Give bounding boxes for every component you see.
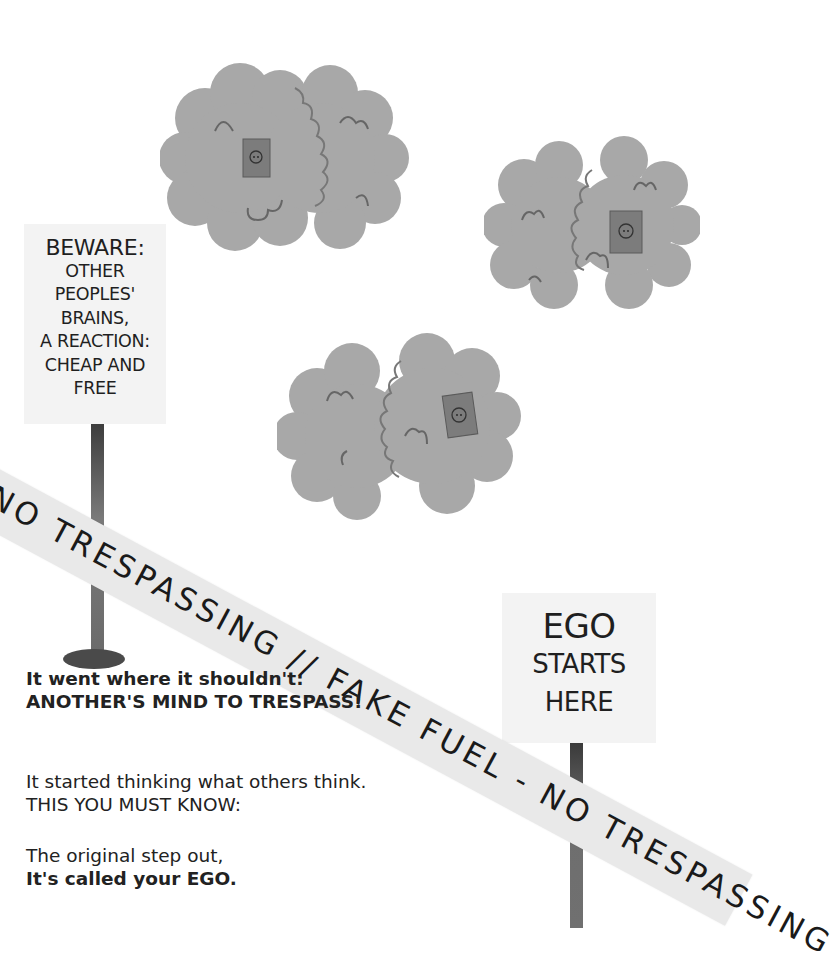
- poem-stanza-3: The original step out, It's called your …: [26, 844, 237, 890]
- sign-line: BRAINS,: [24, 307, 166, 331]
- ego-starts-here-sign: EGO STARTS HERE: [502, 593, 656, 743]
- poem-line: ANOTHER'S MIND TO TRESPASS!: [26, 690, 363, 713]
- sign-line: HERE: [502, 683, 656, 721]
- sign-line: OTHER: [24, 260, 166, 284]
- poem-line: It went where it shouldn't:: [26, 667, 363, 690]
- brain-center-illustration: [277, 326, 527, 521]
- outlet-icon: [610, 211, 642, 253]
- sign-line: STARTS: [502, 645, 656, 683]
- poem-line: It's called your EGO.: [26, 867, 237, 890]
- poem-line: The original step out,: [26, 844, 237, 867]
- sign-line: PEOPLES': [24, 283, 166, 307]
- beware-sign: BEWARE: OTHER PEOPLES' BRAINS, A REACTIO…: [24, 224, 166, 424]
- sign-line: EGO: [502, 607, 656, 645]
- brain-top-right-illustration: [484, 130, 700, 310]
- outlet-icon: [243, 139, 270, 177]
- poem-stanza-1: It went where it shouldn't: ANOTHER'S MI…: [26, 667, 363, 713]
- sign-line: CHEAP AND: [24, 354, 166, 378]
- sign-line: BEWARE:: [24, 236, 166, 260]
- poem-line: It started thinking what others think.: [26, 770, 366, 793]
- sign-line: FREE: [24, 377, 166, 401]
- poem-stanza-2: It started thinking what others think. T…: [26, 770, 366, 816]
- sign-line: A REACTION:: [24, 330, 166, 354]
- brain-top-left-illustration: [160, 58, 410, 253]
- left-sign-base: [63, 649, 125, 669]
- outlet-icon: [442, 392, 478, 438]
- poem-line: THIS YOU MUST KNOW:: [26, 793, 366, 816]
